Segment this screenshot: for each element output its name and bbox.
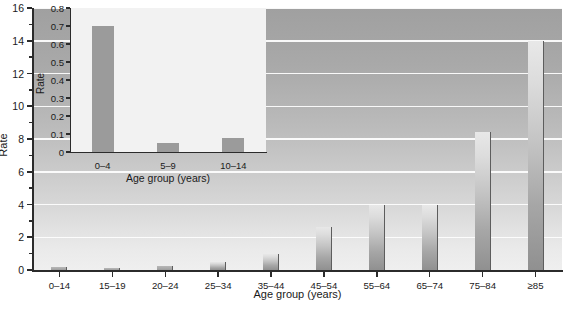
inset-y-axis-title: Rate [35, 73, 46, 94]
y-tick [27, 138, 32, 140]
inset-y-tick-label: 0.4 [51, 75, 64, 86]
x-tick [535, 271, 536, 277]
inset-x-tick-label: 10–14 [220, 160, 246, 171]
x-tick [165, 271, 166, 277]
x-tick [429, 271, 430, 277]
y-tick-label: 6 [18, 166, 24, 178]
inset-x-tick-label: 0–4 [95, 160, 111, 171]
x-tick [323, 271, 324, 277]
bar [210, 262, 226, 270]
y-tick [27, 236, 32, 238]
bar-chart-figure: 0246810121416 0–1415–1920–2425–3435–4445… [0, 0, 567, 309]
y-tick-minor [29, 56, 33, 58]
inset-y-tick-label: 0.5 [51, 57, 64, 68]
inset-y-axis-line [70, 8, 71, 153]
y-tick [27, 40, 32, 42]
y-tick-minor [29, 220, 33, 222]
inset-y-tick-label: 0.6 [51, 39, 64, 50]
inset-x-axis-line [70, 152, 267, 153]
y-tick-label: 14 [12, 35, 24, 47]
inset-y-tick [66, 61, 71, 62]
inset-y-tick-label: 0.8 [51, 3, 64, 14]
x-tick [112, 271, 113, 277]
y-tick-minor [29, 89, 33, 91]
inset-y-tick-label: 0.1 [51, 129, 64, 140]
y-tick [27, 7, 32, 9]
y-tick-label: 16 [12, 2, 24, 14]
y-tick-minor [29, 155, 33, 157]
inset-bar [92, 26, 114, 152]
y-tick-label: 10 [12, 100, 24, 112]
inset-y-tick [66, 151, 71, 152]
inset-bar [222, 138, 244, 152]
bar [369, 205, 385, 271]
x-tick [270, 271, 271, 277]
x-tick [217, 271, 218, 277]
inset-panel [70, 8, 266, 153]
bar [316, 227, 332, 270]
inset-y-tick [66, 43, 71, 44]
y-tick-label: 12 [12, 68, 24, 80]
bar [422, 205, 438, 271]
inset-y-tick [66, 79, 71, 80]
inset-y-tick [66, 115, 71, 116]
y-tick [27, 73, 32, 75]
y-tick [27, 105, 32, 107]
main-x-axis-title: Age group (years) [33, 288, 562, 300]
y-tick-label: 0 [18, 264, 24, 276]
inset-y-tick [66, 7, 71, 8]
x-tick [376, 271, 377, 277]
y-tick-minor [29, 24, 33, 26]
bar [528, 41, 544, 270]
main-y-axis-line [32, 8, 34, 271]
bar [475, 132, 491, 270]
inset-y-tick-label: 0.7 [51, 21, 64, 32]
y-tick [27, 171, 32, 173]
inset-x-axis-title: Age group (years) [70, 172, 266, 184]
y-tick-minor [29, 187, 33, 189]
main-y-axis-title: Rate [0, 133, 9, 156]
inset-y-tick-label: 0.2 [51, 111, 64, 122]
inset-y-tick [66, 133, 71, 134]
inset-y-tick-label: 0.3 [51, 93, 64, 104]
x-tick [59, 271, 60, 277]
inset-bar [157, 143, 179, 152]
y-tick [27, 269, 32, 271]
x-tick [482, 271, 483, 277]
inset-y-tick [66, 25, 71, 26]
inset-y-tick [66, 97, 71, 98]
y-tick-minor [29, 122, 33, 124]
inset-x-tick-label: 5–9 [160, 160, 176, 171]
inset-plot-area [70, 8, 266, 152]
inset-y-tick-label: 0 [59, 147, 64, 158]
y-tick-label: 4 [18, 199, 24, 211]
bar [263, 254, 279, 270]
y-tick [27, 204, 32, 206]
y-tick-label: 2 [18, 231, 24, 243]
y-tick-minor [29, 253, 33, 255]
y-tick-label: 8 [18, 133, 24, 145]
